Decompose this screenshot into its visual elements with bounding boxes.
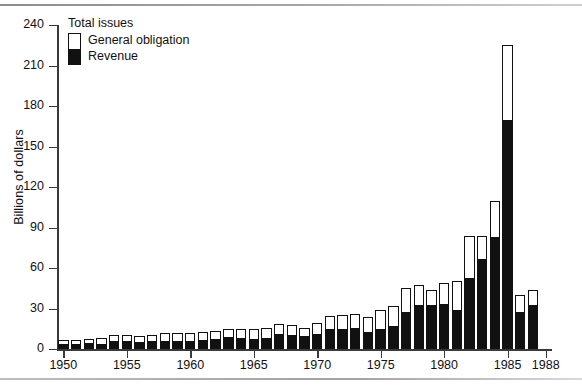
x-tick-label: 1975 — [367, 358, 395, 372]
bar-1961 — [198, 332, 208, 349]
bar-1956 — [134, 336, 144, 350]
bar-revenue-segment — [261, 338, 271, 349]
x-tick-label: 1955 — [113, 358, 141, 372]
x-tick-mark — [546, 350, 547, 358]
x-tick-mark — [317, 350, 318, 358]
bar-revenue-segment — [287, 335, 297, 349]
bar-1983 — [477, 236, 487, 349]
bar-revenue-segment — [71, 344, 81, 349]
y-tick-label: 180 — [0, 99, 44, 111]
bar-revenue-segment — [502, 120, 512, 349]
bar-1980 — [439, 283, 449, 349]
bar-1971 — [325, 316, 335, 349]
bar-1970 — [312, 323, 322, 349]
legend-item-revenue: Revenue — [88, 48, 189, 64]
bar-1969 — [299, 328, 309, 349]
bar-revenue-segment — [274, 334, 284, 349]
bar-1986 — [515, 295, 525, 349]
bar-1966 — [261, 328, 271, 349]
y-axis-label: Billions of dollars — [12, 62, 26, 292]
x-tick-label: 1950 — [49, 358, 77, 372]
bar-1962 — [210, 331, 220, 349]
bar-1960 — [185, 333, 195, 349]
y-tick-label: 240 — [0, 18, 44, 30]
bar-1964 — [236, 329, 246, 349]
bar-revenue-segment — [515, 312, 525, 350]
bar-revenue-segment — [528, 305, 538, 349]
bar-revenue-segment — [84, 343, 94, 349]
bar-1985 — [502, 45, 512, 349]
legend-swatch-revenue-fill — [69, 49, 80, 64]
bar-revenue-segment — [198, 340, 208, 349]
bar-1968 — [287, 325, 297, 349]
bar-revenue-segment — [299, 336, 309, 349]
bar-revenue-segment — [452, 310, 462, 349]
bar-1967 — [274, 324, 284, 349]
legend-swatch-icon — [68, 33, 81, 65]
y-tick-label: 90 — [0, 221, 44, 233]
y-tick-label: 210 — [0, 59, 44, 71]
bar-1972 — [337, 315, 347, 349]
bar-1981 — [452, 281, 462, 349]
bar-1974 — [363, 317, 373, 349]
chart-legend: Total issues General obligation Revenue — [68, 16, 189, 64]
bar-revenue-segment — [249, 339, 259, 350]
bar-1975 — [375, 310, 385, 349]
bar-1954 — [109, 335, 119, 349]
x-tick-label: 1960 — [176, 358, 204, 372]
bar-revenue-segment — [388, 326, 398, 349]
y-tick-label: 120 — [0, 180, 44, 192]
bar-revenue-segment — [236, 338, 246, 349]
bar-1958 — [160, 333, 170, 349]
bar-revenue-segment — [96, 344, 106, 349]
bar-1950 — [58, 340, 68, 349]
bar-revenue-segment — [160, 341, 170, 349]
y-tick-label: 30 — [0, 302, 44, 314]
y-tick-label: 60 — [0, 261, 44, 273]
bar-1979 — [426, 290, 436, 349]
x-tick-label: 1970 — [303, 358, 331, 372]
x-tick-mark — [381, 350, 382, 358]
x-tick-mark — [508, 350, 509, 358]
bar-revenue-segment — [58, 344, 68, 349]
bar-revenue-segment — [223, 337, 233, 349]
bar-revenue-segment — [490, 237, 500, 349]
x-tick-mark — [63, 350, 64, 358]
bar-1982 — [464, 236, 474, 349]
y-tick-label: 0 — [0, 342, 44, 354]
x-tick-mark — [444, 350, 445, 358]
x-tick-label: 1985 — [494, 358, 522, 372]
bar-revenue-segment — [147, 341, 157, 349]
y-tick-label: 150 — [0, 140, 44, 152]
bar-1976 — [388, 306, 398, 349]
bar-revenue-segment — [439, 304, 449, 349]
y-tick-mark — [49, 349, 58, 350]
bar-revenue-segment — [122, 341, 132, 349]
bar-1953 — [96, 338, 106, 349]
bar-1955 — [122, 335, 132, 349]
bar-revenue-segment — [134, 342, 144, 349]
bar-revenue-segment — [172, 341, 182, 349]
bar-revenue-segment — [325, 329, 335, 349]
bar-1951 — [71, 340, 81, 349]
bars-container — [57, 25, 552, 349]
bar-1977 — [401, 288, 411, 349]
bar-revenue-segment — [375, 329, 385, 349]
x-tick-mark — [190, 350, 191, 358]
legend-title: Total issues — [68, 16, 189, 30]
x-tick-label: 1965 — [240, 358, 268, 372]
bar-revenue-segment — [464, 278, 474, 349]
bar-revenue-segment — [426, 305, 436, 349]
bar-revenue-segment — [109, 341, 119, 349]
x-axis-line — [57, 349, 552, 351]
bar-revenue-segment — [350, 328, 360, 349]
bar-1963 — [223, 329, 233, 349]
bar-revenue-segment — [185, 341, 195, 349]
legend-body: General obligation Revenue — [68, 32, 189, 64]
bar-1957 — [147, 335, 157, 349]
legend-item-general-obligation: General obligation — [88, 32, 189, 48]
bar-1952 — [84, 339, 94, 349]
bar-revenue-segment — [401, 312, 411, 350]
x-tick-label: 1980 — [430, 358, 458, 372]
x-tick-mark — [254, 350, 255, 358]
